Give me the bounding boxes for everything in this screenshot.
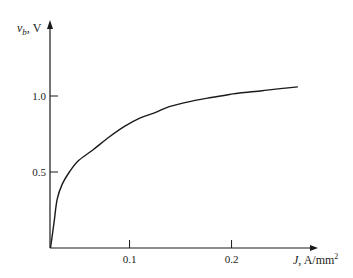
y-axis-arrow-icon (47, 20, 53, 29)
series-line-0 (51, 87, 298, 248)
x-axis-unit-superscript: 2 (334, 252, 338, 261)
series-group (51, 87, 298, 248)
y-axis-title: vb, V (17, 21, 42, 37)
y-tick-label-0: 0.5 (32, 166, 46, 178)
y-axis-unit: V (33, 21, 42, 35)
x-axis-title: J, A/mm2 (293, 252, 338, 267)
x-axis-unit: A/mm (304, 253, 335, 267)
chart: 0.10.2 0.51.0 vb, V J, A/mm2 (0, 0, 353, 278)
axes (47, 20, 318, 251)
x-axis-arrow-icon (310, 245, 318, 251)
y-ticks: 0.51.0 (32, 90, 58, 178)
x-tick-label-0: 0.1 (123, 253, 137, 265)
x-ticks: 0.10.2 (123, 240, 239, 265)
y-tick-label-1: 1.0 (32, 90, 46, 102)
x-tick-label-1: 0.2 (225, 253, 239, 265)
